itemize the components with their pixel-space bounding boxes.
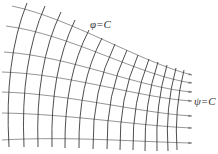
equipotential-line-1	[8, 3, 27, 147]
equipotential-line-9	[120, 55, 138, 150]
equipotential-line-4	[52, 20, 75, 147]
streamline-3	[4, 52, 192, 92]
streamline-6	[2, 113, 192, 128]
streamline-7	[2, 139, 192, 143]
equipotential-line-12	[157, 65, 167, 151]
streamline-1	[12, 6, 192, 75]
streamline-5	[2, 92, 192, 116]
equipotential-line-11	[145, 62, 158, 151]
equipotential-line-13	[167, 68, 176, 151]
streamline-label: ψ=C	[194, 95, 216, 107]
equipotential-line-3	[38, 12, 61, 147]
equipotential-line-6	[79, 38, 102, 148]
equipotential-label: φ=C	[90, 18, 111, 30]
equipotential-line-10	[133, 59, 149, 150]
equipotential-line-14	[176, 70, 184, 150]
